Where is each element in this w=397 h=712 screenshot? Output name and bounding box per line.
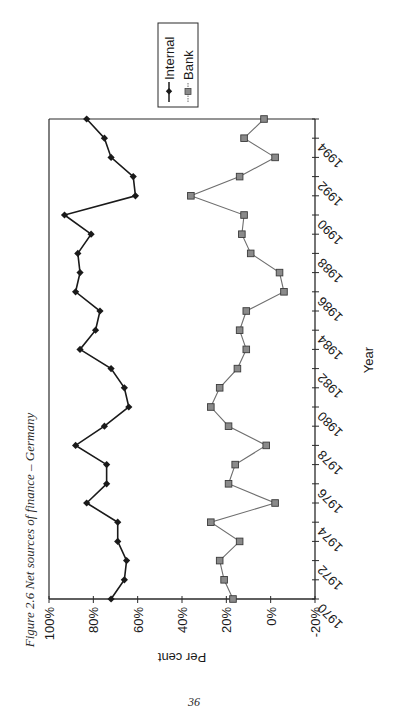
point-bank-1975 (272, 500, 279, 507)
legend-bank-square-icon (185, 89, 191, 95)
point-bank-1995 (261, 116, 268, 123)
year-tick-label: 1992 (315, 178, 346, 209)
year-tick-label: 1982 (315, 370, 346, 401)
figure-caption: Figure 2.6 Net sources of finance – Germ… (22, 413, 37, 649)
point-bank-1984 (236, 327, 243, 334)
legend-label-internal: Internal (162, 37, 177, 80)
point-bank-1983 (243, 346, 250, 353)
series-line-internal (65, 119, 136, 599)
year-tick-label: 1988 (315, 255, 346, 286)
year-tick-label: 1986 (315, 294, 346, 325)
percent-tick-label: 60% (131, 607, 146, 633)
point-bank-1978 (263, 442, 270, 449)
point-bank-1990 (241, 212, 248, 219)
page-number: 36 (187, 695, 200, 709)
x-axis-title: Year (361, 346, 376, 373)
year-tick-label: 1976 (315, 486, 346, 517)
point-bank-1976 (225, 481, 232, 488)
point-bank-1979 (225, 423, 232, 430)
point-bank-1980 (208, 404, 215, 411)
point-bank-1987 (276, 269, 283, 276)
point-bank-1972 (216, 557, 223, 564)
point-bank-1985 (243, 308, 250, 315)
series-line-bank (191, 119, 284, 599)
point-bank-1989 (239, 231, 246, 238)
chart: 1970197219741976197819801982198419861988… (0, 0, 397, 712)
legend-label-bank: Bank (181, 50, 196, 80)
year-tick-label: 1972 (315, 562, 346, 593)
y-axis-title: Per cent (157, 650, 206, 665)
point-bank-1992 (236, 173, 243, 180)
year-axis-ticks: 1970197219741976197819801982198419861988… (312, 119, 346, 632)
percent-tick-label: 100% (42, 607, 57, 641)
year-tick-label: 1994 (315, 140, 346, 171)
plot-frame (49, 119, 315, 599)
point-bank-1981 (216, 385, 223, 392)
point-internal-1987 (76, 269, 83, 276)
year-tick-label: 1990 (315, 217, 346, 248)
point-bank-1988 (247, 250, 254, 257)
percent-tick-label: 20% (219, 607, 234, 633)
point-internal-1974 (114, 519, 121, 526)
point-bank-1991 (188, 193, 195, 200)
point-internal-1977 (103, 461, 110, 468)
series-internal (61, 115, 139, 602)
point-bank-1977 (232, 461, 239, 468)
point-internal-1973 (114, 538, 121, 545)
percent-tick-label: 0% (264, 607, 279, 626)
point-bank-1970 (230, 596, 237, 603)
series-bank (188, 116, 288, 603)
year-tick-label: 1984 (315, 332, 346, 363)
point-bank-1973 (236, 538, 243, 545)
percent-tick-label: -20% (308, 607, 323, 638)
point-bank-1982 (234, 365, 241, 372)
point-internal-1972 (123, 557, 130, 564)
legend: Internal Bank (158, 23, 198, 107)
series-layer (61, 115, 287, 602)
year-tick-label: 1974 (315, 524, 346, 555)
point-bank-1993 (272, 154, 279, 161)
point-internal-1991 (132, 192, 139, 199)
point-bank-1974 (208, 519, 215, 526)
year-tick-label: 1980 (315, 409, 346, 440)
percent-tick-label: 80% (86, 607, 101, 633)
point-bank-1971 (221, 577, 228, 584)
percent-tick-label: 40% (175, 607, 190, 633)
year-tick-label: 1978 (315, 447, 346, 478)
point-bank-1986 (281, 289, 288, 296)
percent-axis-ticks: 100%80%60%40%20%0%-20% (42, 596, 323, 640)
point-bank-1994 (241, 135, 248, 142)
